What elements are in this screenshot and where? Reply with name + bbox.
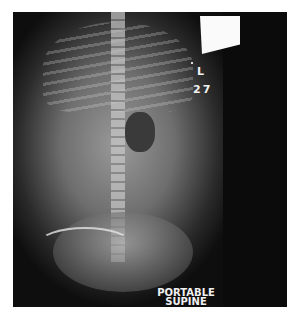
stomach-gas-bubble (125, 112, 155, 152)
caption-supine: SUPINE (156, 297, 216, 306)
marker-dot (191, 62, 193, 64)
xray-image: L 27 PORTABLE SUPINE (13, 12, 287, 307)
collimator-light-patch (200, 16, 240, 54)
side-marker: L (197, 66, 204, 77)
image-number: 27 (193, 84, 212, 95)
view-caption: PORTABLE SUPINE (156, 288, 216, 306)
catheter-line (38, 227, 132, 261)
